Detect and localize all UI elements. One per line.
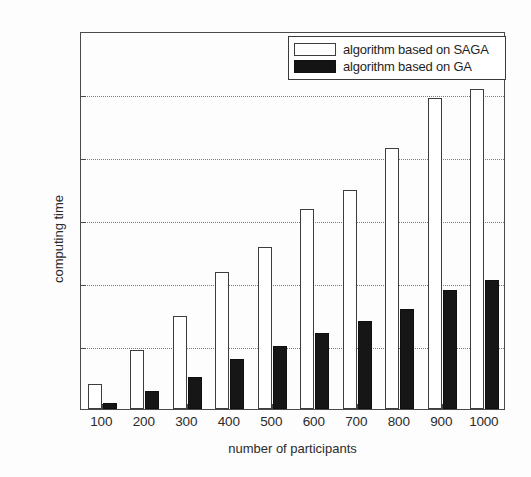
bar-500-saga	[258, 247, 272, 409]
x-axis-label: number of participants	[80, 441, 505, 456]
chart-legend: algorithm based on SAGA algorithm based …	[288, 36, 506, 80]
legend-item-saga: algorithm based on SAGA	[294, 41, 500, 58]
y-tick-mark	[81, 285, 86, 286]
bar-600-ga	[315, 333, 329, 409]
y-tick-mark	[81, 96, 86, 97]
legend-label-ga: algorithm based on GA	[343, 59, 472, 74]
bar-400-saga	[215, 272, 229, 409]
bar-300-ga	[188, 377, 202, 409]
bar-400-ga	[230, 359, 244, 409]
chart-figure: computing time number of participants 01…	[0, 0, 531, 477]
bar-1000-saga	[470, 89, 484, 409]
legend-item-ga: algorithm based on GA	[294, 58, 500, 75]
bar-200-saga	[130, 350, 144, 409]
bar-600-saga	[300, 209, 314, 409]
legend-swatch-ga-icon	[294, 60, 336, 73]
y-tick-mark	[81, 348, 86, 349]
bar-100-saga	[88, 384, 102, 409]
plot-area: 0100200300400500600	[80, 32, 505, 410]
bar-1000-ga	[485, 280, 499, 409]
y-axis-label: computing time	[51, 194, 66, 282]
y-tick-mark	[81, 222, 86, 223]
bar-700-saga	[343, 190, 357, 409]
bar-300-saga	[173, 316, 187, 409]
y-tick-mark	[81, 159, 86, 160]
legend-label-saga: algorithm based on SAGA	[343, 42, 489, 57]
bar-100-ga	[103, 403, 117, 409]
bar-700-ga	[358, 321, 372, 409]
legend-swatch-saga-icon	[294, 43, 336, 56]
bar-800-ga	[400, 309, 414, 409]
bar-200-ga	[145, 391, 159, 409]
bar-800-saga	[385, 148, 399, 409]
bar-900-saga	[428, 98, 442, 409]
bar-900-ga	[443, 290, 457, 409]
bar-500-ga	[273, 346, 287, 409]
x-tick-label: 1000	[454, 414, 514, 429]
